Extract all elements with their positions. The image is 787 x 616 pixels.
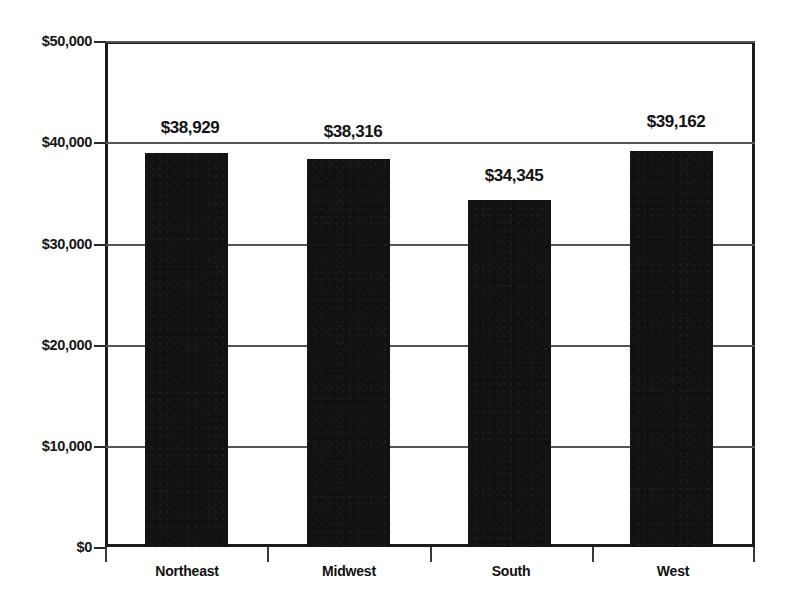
- ytick-label-40000: $40,000: [8, 134, 92, 150]
- ytick-label-30000: $30,000: [8, 236, 92, 252]
- xcat-label-south: South: [430, 563, 592, 579]
- gridline-40000: [105, 142, 755, 144]
- bar-midwest: [307, 159, 390, 547]
- xtick-boundary-0: [105, 547, 107, 562]
- ytick-label-20000: $20,000: [8, 337, 92, 353]
- ytick-dash-20000: [94, 345, 106, 347]
- ytick-label-0: $0: [8, 539, 92, 555]
- ytick-dash-30000: [94, 244, 106, 246]
- bar-west: [630, 151, 713, 547]
- bar-northeast: [145, 153, 228, 547]
- gridline-50000: [105, 41, 755, 43]
- bar-south: [468, 200, 551, 547]
- ytick-label-50000: $50,000: [8, 33, 92, 49]
- ytick-dash-50000: [94, 41, 106, 43]
- xtick-boundary-4: [753, 547, 755, 562]
- xtick-boundary-2: [430, 547, 432, 562]
- cut-off-title-sliver: [0, 0, 787, 9]
- ytick-label-10000: $10,000: [8, 438, 92, 454]
- ytick-dash-10000: [94, 446, 106, 448]
- xcat-label-west: West: [592, 563, 754, 579]
- xcat-label-midwest: Midwest: [268, 563, 430, 579]
- xtick-boundary-3: [592, 547, 594, 562]
- bar-value-label-south: $34,345: [450, 166, 578, 186]
- bar-value-label-west: $39,162: [612, 112, 740, 132]
- ytick-dash-40000: [94, 142, 106, 144]
- xcat-label-northeast: Northeast: [106, 563, 268, 579]
- bar-chart-figure: $50,000 $40,000 $30,000 $20,000 $10,000 …: [0, 0, 787, 616]
- bar-value-label-northeast: $38,929: [126, 118, 254, 138]
- bar-value-label-midwest: $38,316: [289, 122, 417, 142]
- xtick-boundary-1: [267, 547, 269, 562]
